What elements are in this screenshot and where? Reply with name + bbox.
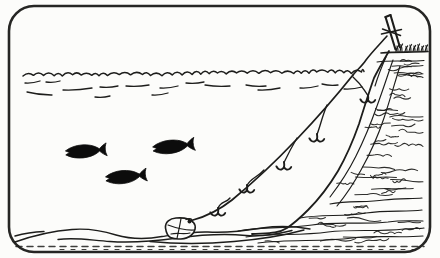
hook-barb xyxy=(283,166,286,169)
hook-barb xyxy=(217,212,220,215)
stone-knot xyxy=(188,220,192,224)
illustration-canvas xyxy=(0,0,440,258)
hook-barb xyxy=(246,189,249,192)
anchor-stone xyxy=(165,218,195,239)
stone-lashing xyxy=(171,233,190,234)
hook-barb xyxy=(316,138,319,141)
hook-barb xyxy=(367,99,370,102)
illustration xyxy=(0,0,440,258)
